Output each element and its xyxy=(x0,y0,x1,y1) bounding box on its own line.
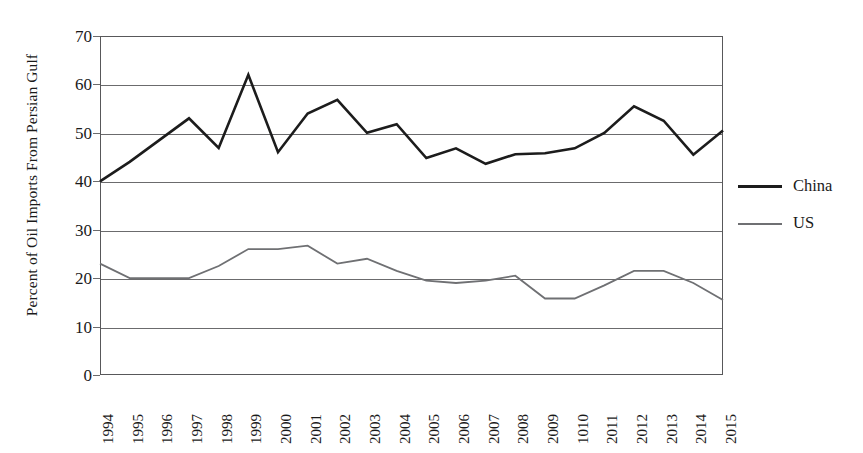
legend-line-swatch-icon xyxy=(738,185,782,188)
x-tick-label-wrap: 2007 xyxy=(486,380,501,444)
y-tick-mark xyxy=(93,278,100,279)
x-tick-label-wrap: 2015 xyxy=(723,380,738,444)
x-tick-label: 2006 xyxy=(457,414,472,444)
x-tick-label-wrap: 1999 xyxy=(248,380,263,444)
x-tick-label-wrap: 2000 xyxy=(278,380,293,444)
y-tick-label: 30 xyxy=(46,221,92,238)
x-tick-label-wrap: 2011 xyxy=(604,380,619,444)
x-tick-label-wrap: 2004 xyxy=(397,380,412,444)
x-tick-label: 1994 xyxy=(101,414,116,444)
x-tick-label: 2002 xyxy=(338,414,353,444)
x-tick-label: 2008 xyxy=(516,414,531,444)
x-tick-label-wrap: 1010 xyxy=(575,380,590,444)
legend-item-us[interactable]: US xyxy=(738,205,858,242)
x-tick-label: 1996 xyxy=(160,414,175,444)
x-tick-label-wrap: 1997 xyxy=(189,380,204,444)
x-tick-label-wrap: 2003 xyxy=(367,380,382,444)
series-lines xyxy=(100,36,723,375)
x-tick-label-wrap: 1996 xyxy=(159,380,174,444)
x-tick-label: 2014 xyxy=(694,414,709,444)
x-tick-label: 2015 xyxy=(724,414,739,444)
chart-legend: ChinaUS xyxy=(738,168,858,242)
y-tick-mark xyxy=(93,133,100,134)
x-tick-label: 1995 xyxy=(131,414,146,444)
y-tick-label: 0 xyxy=(46,367,92,384)
x-tick-label: 2001 xyxy=(309,414,324,444)
x-tick-label-wrap: 2014 xyxy=(693,380,708,444)
x-tick-label-wrap: 2002 xyxy=(337,380,352,444)
x-tick-label: 2000 xyxy=(279,414,294,444)
x-tick-label-wrap: 1994 xyxy=(100,380,115,444)
x-tick-label: 2011 xyxy=(605,415,620,444)
x-tick-label-wrap: 2009 xyxy=(545,380,560,444)
x-tick-label: 1999 xyxy=(249,414,264,444)
x-tick-label-wrap: 2006 xyxy=(456,380,471,444)
y-tick-label: 60 xyxy=(46,76,92,93)
y-tick-label: 10 xyxy=(46,318,92,335)
y-tick-mark xyxy=(93,230,100,231)
y-axis-ticks: 010203040506070 xyxy=(40,36,92,375)
oil-imports-line-chart: Percent of Oil Imports From Persian Gulf… xyxy=(0,0,863,453)
legend-item-china[interactable]: China xyxy=(738,168,858,205)
series-line-us xyxy=(100,246,723,300)
x-tick-label: 2007 xyxy=(487,414,502,444)
y-tick-label: 40 xyxy=(46,173,92,190)
y-tick-mark xyxy=(93,375,100,376)
y-tick-mark xyxy=(93,84,100,85)
y-tick-mark xyxy=(93,36,100,37)
x-tick-label-wrap: 1995 xyxy=(130,380,145,444)
x-tick-label-wrap: 2005 xyxy=(426,380,441,444)
series-line-china xyxy=(100,75,723,182)
y-tick-label: 70 xyxy=(46,28,92,45)
x-tick-label-wrap: 1998 xyxy=(219,380,234,444)
x-axis-labels: 1994199519961997199819992000200120022003… xyxy=(100,380,723,450)
x-tick-label: 2009 xyxy=(546,414,561,444)
x-tick-label: 2005 xyxy=(427,414,442,444)
y-tick-label: 50 xyxy=(46,124,92,141)
y-axis-title: Percent of Oil Imports From Persian Gulf xyxy=(23,5,41,365)
x-tick-label: 1998 xyxy=(220,414,235,444)
x-tick-label: 1010 xyxy=(576,414,591,444)
x-tick-label: 2013 xyxy=(665,414,680,444)
x-tick-label-wrap: 2008 xyxy=(515,380,530,444)
legend-line-swatch-icon xyxy=(738,223,782,225)
legend-label: US xyxy=(793,215,814,232)
y-tick-mark xyxy=(93,327,100,328)
y-tick-label: 20 xyxy=(46,270,92,287)
y-tick-mark xyxy=(93,181,100,182)
x-tick-label: 1997 xyxy=(190,414,205,444)
x-tick-label-wrap: 2013 xyxy=(664,380,679,444)
x-tick-label: 2004 xyxy=(398,414,413,444)
x-tick-label: 2012 xyxy=(635,414,650,444)
x-tick-label-wrap: 2001 xyxy=(308,380,323,444)
x-tick-label-wrap: 2012 xyxy=(634,380,649,444)
x-tick-label: 2003 xyxy=(368,414,383,444)
legend-label: China xyxy=(793,178,832,195)
